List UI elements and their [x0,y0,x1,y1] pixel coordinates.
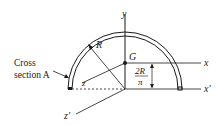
cross-section-label-line1: Cross [14,58,36,68]
dimension-numerator: 2R [135,66,146,76]
semicircular-rod-diagram: y x x′ z′ z R G 2R π Cross section A [0,0,220,126]
centroid-point [123,61,127,65]
z-prime-axis-line [76,89,125,114]
x-axis-label: x [203,57,209,68]
radius-line [90,47,125,89]
dimension-denominator: π [138,77,143,87]
z-prime-axis-label: z′ [63,110,71,121]
rod-left-end-cap [68,87,72,90]
cross-section-label-line2: section A [14,70,50,80]
dimension-arrow-bottom [150,84,154,88]
dimension-arrow-top [150,64,154,68]
rod-right-end-cap [178,87,182,90]
z-axis-line [82,63,125,83]
y-axis-label: y [121,8,127,19]
x-prime-axis-label: x′ [203,83,211,94]
radius-label: R [95,39,102,50]
cross-section-pointer [53,71,67,77]
z-label: z [81,78,86,88]
centroid-label: G [129,51,136,62]
